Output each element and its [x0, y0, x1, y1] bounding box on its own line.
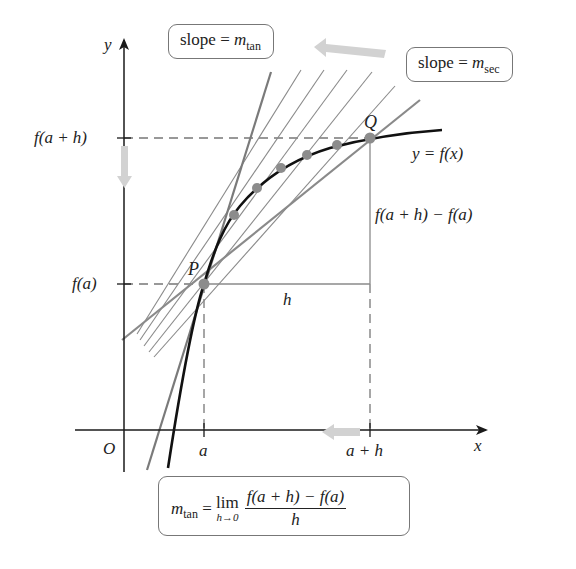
rise-label: f(a + h) − f(a): [375, 206, 473, 223]
curve-f: [168, 130, 442, 468]
y-axis-label: y: [104, 36, 112, 53]
origin-label: O: [103, 440, 115, 457]
callout-sec-sub: sec: [484, 62, 499, 76]
formula-m: m: [171, 499, 183, 519]
tick-label-a-plus-h: a + h: [346, 442, 383, 459]
tick-label-f-a: f(a): [72, 275, 97, 292]
formula-numerator: f(a + h) − f(a): [245, 487, 347, 509]
arrow-left-xaxis-icon: [322, 424, 360, 440]
arrow-left-top-icon: [314, 38, 386, 58]
point-p: [199, 279, 210, 290]
tick-label-a: a: [199, 442, 208, 459]
curve-label: y = f(x): [412, 145, 463, 162]
callout-slope-tan: slope = mtan: [168, 24, 274, 59]
formula-box: mtan = lim h→0 f(a + h) − f(a) h: [158, 476, 410, 536]
arrow-down-yaxis-icon: [117, 146, 132, 188]
point-3: [276, 163, 286, 173]
callout-tan-sub: tan: [246, 39, 261, 53]
point-4: [302, 150, 312, 160]
formula-equals: =: [198, 499, 216, 519]
formula-denominator: h: [245, 509, 347, 530]
point-label-p: P: [188, 260, 199, 278]
formula-fraction: f(a + h) − f(a) h: [245, 487, 347, 530]
formula-sub: tan: [183, 507, 198, 522]
callout-sec-prefix: slope =: [418, 53, 472, 72]
point-label-q: Q: [364, 113, 377, 131]
h-label: h: [283, 291, 292, 308]
formula-lim-under: h→0: [216, 512, 239, 523]
motion-arrows: [117, 38, 386, 440]
tick-label-f-a-plus-h: f(a + h): [34, 129, 87, 146]
x-axis-label: x: [474, 437, 482, 454]
point-2: [252, 183, 262, 193]
callout-sec-m: m: [472, 53, 484, 72]
callout-slope-sec: slope = msec: [406, 47, 513, 82]
point-1: [229, 210, 239, 220]
formula-limit: lim h→0: [216, 494, 239, 523]
secant-lines: [137, 70, 395, 357]
callout-tan-m: m: [234, 30, 246, 49]
formula-lim-text: lim: [216, 493, 239, 512]
callout-tan-prefix: slope =: [180, 30, 234, 49]
axis-ticks: [117, 138, 370, 437]
point-5: [332, 140, 342, 150]
point-q: [365, 133, 376, 144]
